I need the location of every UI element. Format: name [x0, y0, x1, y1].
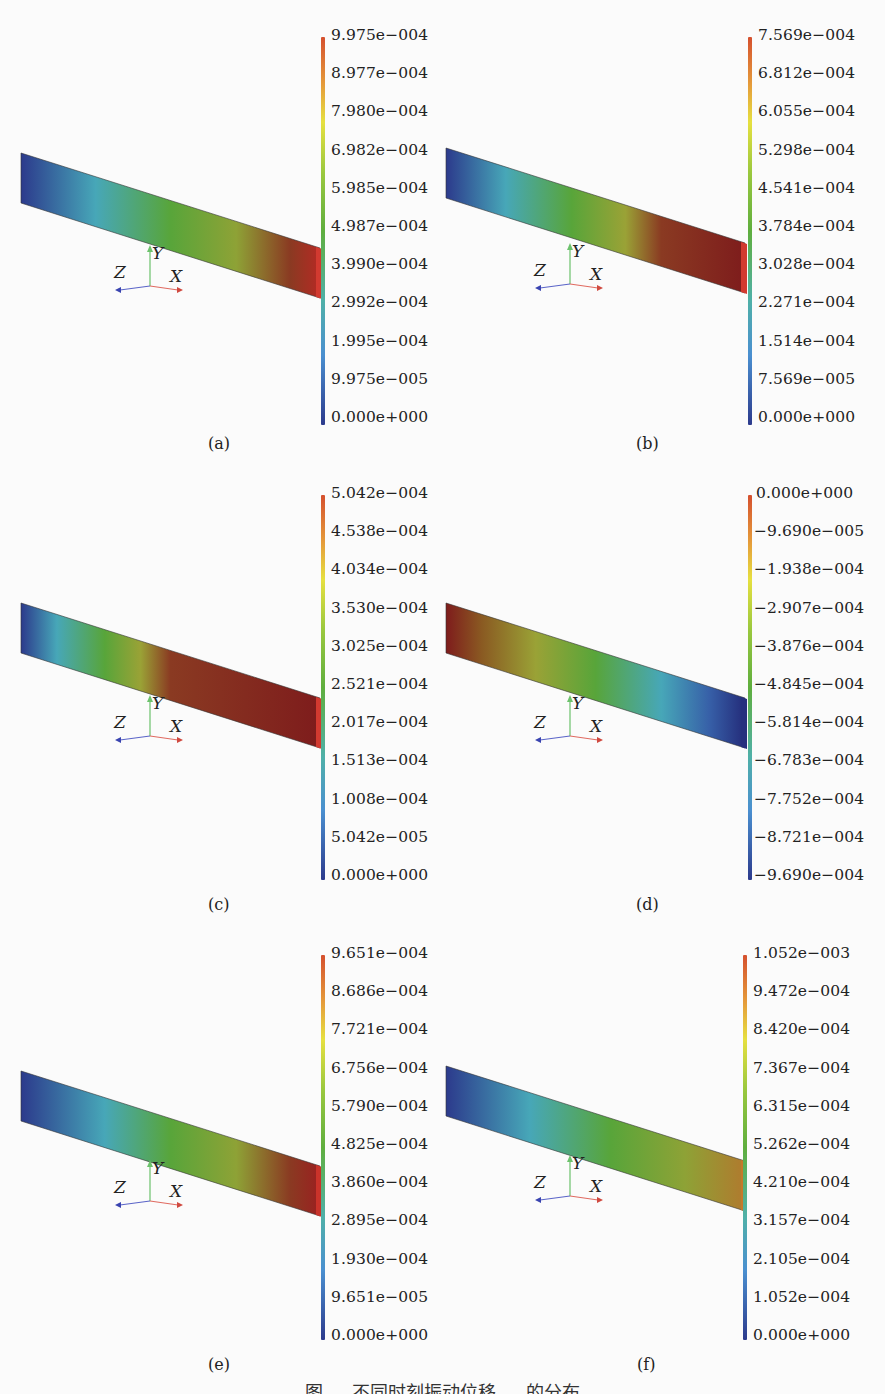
colorbar-tick: −3.876e−004 [754, 638, 864, 654]
colorbar-tick: 0.000e+000 [756, 485, 853, 501]
panel-e: Y Z X 9.651e−004 8.686e−004 7.721e−004 6… [0, 930, 442, 1394]
panel-b: Y Z X 7.569e−004 6.812e−004 6.055e−004 5… [425, 0, 867, 465]
colorbar-tick: 5.790e−004 [331, 1098, 428, 1114]
colorbar-tick: 5.298e−004 [758, 142, 855, 158]
axes-triad: Y Z X [112, 690, 202, 750]
panel-c: Y Z X 5.042e−004 4.538e−004 4.034e−004 3… [0, 465, 442, 930]
subfigure-label: (c) [208, 895, 229, 914]
colorbar-tick: 6.812e−004 [758, 65, 855, 81]
colorbar-tick: −4.845e−004 [754, 676, 864, 692]
colorbar-tick: −1.938e−004 [754, 561, 864, 577]
axis-label-x: X [590, 716, 602, 736]
colorbar-tick: 5.042e−005 [331, 829, 428, 845]
colorbar-tick: −5.814e−004 [754, 714, 864, 730]
colorbar-tick: 0.000e+000 [758, 409, 855, 425]
colorbar [321, 37, 325, 425]
colorbar-tick: −9.690e−005 [754, 523, 864, 539]
colorbar-tick: 4.825e−004 [331, 1136, 428, 1152]
colorbar [748, 495, 752, 880]
colorbar-tick: 9.472e−004 [753, 983, 850, 999]
axis-label-z: Z [534, 260, 546, 280]
colorbar-tick: 0.000e+000 [331, 1327, 428, 1343]
colorbar-tick: −2.907e−004 [754, 600, 864, 616]
axis-label-y: Y [572, 1153, 583, 1173]
colorbar-tick: 4.210e−004 [753, 1174, 850, 1190]
colorbar-tick: 8.977e−004 [331, 65, 428, 81]
axis-label-x: X [590, 264, 602, 284]
colorbar-tick: 6.982e−004 [331, 142, 428, 158]
subfigure-label: (d) [636, 895, 659, 914]
colorbar-tick: −8.721e−004 [754, 829, 864, 845]
axes-triad: Y Z X [532, 1150, 622, 1210]
subfigure-label: (e) [208, 1355, 230, 1374]
axis-label-x: X [170, 716, 182, 736]
colorbar-tick: 3.784e−004 [758, 218, 855, 234]
colorbar-tick: 7.569e−004 [758, 27, 855, 43]
axis-label-x: X [170, 1181, 182, 1201]
colorbar [743, 955, 747, 1340]
colorbar-tick: 2.271e−004 [758, 294, 855, 310]
axis-label-y: Y [572, 693, 583, 713]
colorbar-tick: −7.752e−004 [754, 791, 864, 807]
colorbar-tick: 7.980e−004 [331, 103, 428, 119]
axes-triad: Y Z X [112, 240, 202, 300]
colorbar-tick: 1.513e−004 [331, 752, 428, 768]
colorbar-tick: 3.028e−004 [758, 256, 855, 272]
colorbar-tick: 8.686e−004 [331, 983, 428, 999]
axis-label-x: X [590, 1176, 602, 1196]
colorbar-tick: 2.992e−004 [331, 294, 428, 310]
subfigure-label: (b) [636, 434, 659, 453]
axis-label-y: Y [152, 1158, 163, 1178]
axis-label-x: X [170, 266, 182, 286]
colorbar-tick: 8.420e−004 [753, 1021, 850, 1037]
colorbar [748, 37, 752, 425]
colorbar-tick: 2.017e−004 [331, 714, 428, 730]
colorbar-tick: 0.000e+000 [331, 867, 428, 883]
colorbar-tick: 9.975e−004 [331, 27, 428, 43]
colorbar-tick: 2.521e−004 [331, 676, 428, 692]
subfigure-label: (a) [208, 434, 230, 453]
colorbar-tick: 4.538e−004 [331, 523, 428, 539]
colorbar-tick: 0.000e+000 [331, 409, 428, 425]
colorbar-tick: 3.025e−004 [331, 638, 428, 654]
axis-label-y: Y [152, 243, 163, 263]
colorbar-tick: 7.569e−005 [758, 371, 855, 387]
axis-label-z: Z [534, 712, 546, 732]
axis-label-z: Z [114, 262, 126, 282]
colorbar-tick: 9.651e−005 [331, 1289, 428, 1305]
axes-triad: Y Z X [112, 1155, 202, 1215]
colorbar-tick: 5.262e−004 [753, 1136, 850, 1152]
colorbar-tick: 9.975e−005 [331, 371, 428, 387]
colorbar [321, 955, 325, 1340]
colorbar-tick: 5.042e−004 [331, 485, 428, 501]
colorbar-tick: 4.034e−004 [331, 561, 428, 577]
axes-triad: Y Z X [532, 238, 622, 298]
colorbar-tick: 3.157e−004 [753, 1212, 850, 1228]
colorbar [321, 495, 325, 880]
colorbar-tick: 4.541e−004 [758, 180, 855, 196]
subfigure-label: (f) [637, 1355, 655, 1374]
axis-label-z: Z [114, 712, 126, 732]
colorbar-tick: 2.895e−004 [331, 1212, 428, 1228]
colorbar-tick: 7.721e−004 [331, 1021, 428, 1037]
panel-a: Y Z X 9.975e−004 8.977e−004 7.980e−004 6… [0, 0, 442, 465]
colorbar-tick: −9.690e−004 [754, 867, 864, 883]
axis-label-z: Z [114, 1177, 126, 1197]
axis-label-y: Y [572, 241, 583, 261]
colorbar-tick: 3.990e−004 [331, 256, 428, 272]
axis-label-z: Z [534, 1172, 546, 1192]
colorbar-tick: 2.105e−004 [753, 1251, 850, 1267]
colorbar-tick: −6.783e−004 [754, 752, 864, 768]
colorbar-tick: 4.987e−004 [331, 218, 428, 234]
panel-d: Y Z X 0.000e+000 −9.690e−005 −1.938e−004… [425, 465, 867, 930]
colorbar-tick: 5.985e−004 [331, 180, 428, 196]
colorbar-tick: 1.052e−004 [753, 1289, 850, 1305]
colorbar-tick: 6.756e−004 [331, 1060, 428, 1076]
colorbar-tick: 6.055e−004 [758, 103, 855, 119]
colorbar-tick: 1.514e−004 [758, 333, 855, 349]
axes-triad: Y Z X [532, 690, 622, 750]
panel-f: Y Z X 1.052e−003 9.472e−004 8.420e−004 7… [425, 930, 867, 1394]
axis-label-y: Y [152, 693, 163, 713]
colorbar-tick: 6.315e−004 [753, 1098, 850, 1114]
colorbar-tick: 1.930e−004 [331, 1251, 428, 1267]
